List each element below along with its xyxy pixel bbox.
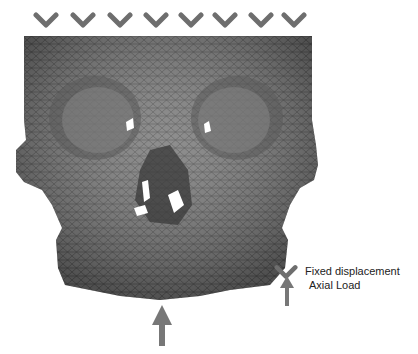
legend-label-axial-load: Axial Load (309, 279, 360, 291)
skull-mesh-model (0, 0, 418, 354)
arrow-up-icon (279, 276, 295, 306)
axial-load-arrow (152, 305, 172, 346)
orbit-left (49, 76, 141, 160)
orbit-right (191, 76, 283, 160)
legend-label-fixed-displacement: Fixed displacement (305, 265, 400, 277)
